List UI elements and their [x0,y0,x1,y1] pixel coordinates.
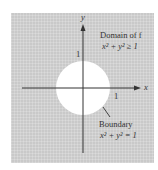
y-axis-arrow-icon [81,24,86,31]
y-tick-1: 1 [76,50,80,59]
x-tick-1: 1 [114,92,118,101]
domain-label: Domain of f [100,31,142,40]
boundary-leader-line [103,107,110,117]
axes-diagram [0,0,158,170]
domain-inequality: x² + y² ≥ 1 [102,42,138,51]
boundary-label: Boundary [99,120,133,129]
boundary-equation: x² + y² = 1 [100,131,137,140]
x-axis-label: x [144,83,148,92]
x-axis-arrow-icon [134,86,141,91]
y-axis-label: y [81,13,85,22]
